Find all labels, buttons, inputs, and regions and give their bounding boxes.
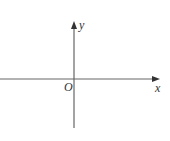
coordinate-axes-diagram: y x O bbox=[0, 0, 170, 141]
y-axis-arrow-icon bbox=[71, 21, 77, 29]
y-axis-label: y bbox=[78, 18, 85, 32]
x-axis-label: x bbox=[154, 81, 161, 95]
origin-label: O bbox=[64, 80, 73, 94]
